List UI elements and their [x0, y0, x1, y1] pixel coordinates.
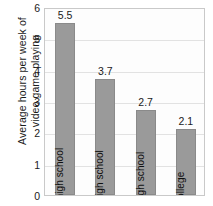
y-axis-tick-label: 6 — [34, 2, 40, 14]
bar-group: Early high school3.7 — [85, 9, 125, 195]
bar-value-label: 5.5 — [58, 9, 73, 21]
bar — [176, 129, 196, 195]
y-axis-tick-label: 2 — [34, 127, 40, 139]
bar — [95, 79, 115, 195]
bar-value-label: 2.1 — [179, 115, 194, 127]
bar-group: Junior high school5.5 — [45, 9, 85, 195]
bars-layer: Junior high school5.5Early high school3.… — [45, 9, 204, 195]
bar — [136, 110, 156, 195]
bar — [55, 23, 75, 195]
bar-group: Late high school2.7 — [126, 9, 166, 195]
y-axis-tick-label: 4 — [34, 65, 40, 77]
bar-chart: Average hours per week of video game pla… — [0, 0, 213, 206]
y-axis-tick-label: 1 — [34, 159, 40, 171]
y-axis-tick-labels: 0123456 — [26, 8, 40, 196]
bar-value-label: 3.7 — [98, 65, 113, 77]
y-axis-tick-label: 3 — [34, 96, 40, 108]
bar-group: College2.1 — [166, 9, 205, 195]
plot-area: Junior high school5.5Early high school3.… — [44, 8, 205, 196]
y-axis-tick-label: 0 — [34, 190, 40, 202]
bar-value-label: 2.7 — [138, 96, 153, 108]
y-axis-tick-label: 5 — [34, 33, 40, 45]
